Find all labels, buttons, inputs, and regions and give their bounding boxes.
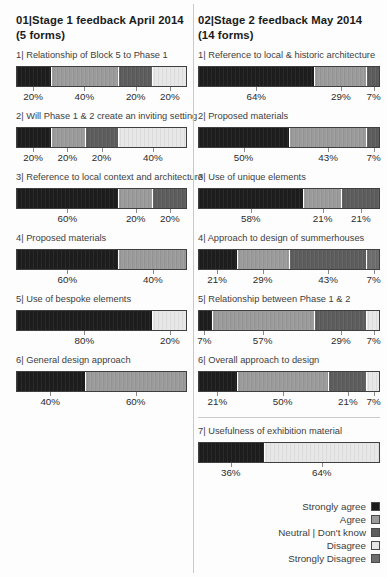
- bar-item: 6| Overall approach to design21%50%21%7%: [198, 354, 380, 409]
- bar-item: 4| Approach to design of summerhouses21%…: [198, 232, 380, 287]
- bar-segment-strongly_agree: [199, 372, 237, 391]
- pct-label: 21%: [207, 396, 227, 407]
- legend-row: Agree: [198, 513, 380, 526]
- pct-label: 64%: [312, 467, 332, 478]
- stacked-bar: [16, 310, 187, 331]
- bar-segment-neutral: [289, 250, 366, 269]
- legend-swatch-agree: [371, 515, 380, 524]
- pct-label: 7%: [366, 396, 380, 407]
- pct-label: 7%: [367, 274, 381, 285]
- pct-label: 60%: [57, 213, 77, 224]
- bar-segment-strongly_agree: [199, 189, 303, 208]
- bar-item-label: 1| Relationship of Block 5 to Phase 1: [16, 49, 187, 62]
- bar-segment-disagree: [366, 372, 379, 391]
- bar-item: 6| General design approach40%60%: [16, 354, 187, 409]
- bar-item-label: 3| Use of unique elements: [198, 171, 380, 184]
- pct-label: 43%: [318, 152, 338, 163]
- bar-item: 3| Reference to local context and archit…: [16, 171, 187, 226]
- bar-segment-agree: [118, 189, 152, 208]
- pct-label: 21%: [313, 213, 333, 224]
- pct-label: 40%: [75, 91, 95, 102]
- bar-segment-strongly_agree: [17, 67, 51, 86]
- bar-item: 4| Proposed materials60%40%: [16, 232, 187, 287]
- pct-label: 20%: [126, 91, 146, 102]
- bar-segment-strongly_agree: [17, 250, 118, 269]
- bar-item-label: 5| Use of bespoke elements: [16, 293, 187, 306]
- pct-label: 50%: [234, 152, 254, 163]
- bar-item-label: 1| Reference to local & historic archite…: [198, 49, 380, 62]
- stacked-bar: [198, 66, 380, 87]
- bar-segment-strongly_agree: [17, 128, 51, 147]
- bar-segment-agree: [118, 250, 186, 269]
- bar-item-label: 7| Usefulness of exhibition material: [198, 425, 380, 438]
- pct-label: 20%: [92, 152, 112, 163]
- bar-segment-strongly_agree: [17, 189, 118, 208]
- stacked-bar: [16, 371, 187, 392]
- pct-label: 57%: [253, 335, 273, 346]
- bar-segment-strongly_agree: [199, 128, 289, 147]
- bar-segment-neutral: [152, 189, 186, 208]
- legend-row: Strongly agree: [198, 500, 380, 513]
- pct-label: 21%: [338, 396, 358, 407]
- bar-value-labels: 20%20%20%40%: [16, 148, 187, 165]
- stage1-panel: 01|Stage 1 feedback April 2014(5 forms)1…: [16, 0, 187, 409]
- bar-segment-agree: [289, 128, 366, 147]
- section-divider: [198, 417, 380, 418]
- pct-label: 40%: [143, 274, 163, 285]
- pct-label: 7%: [197, 335, 211, 346]
- panel-subtitle: (5 forms): [16, 28, 187, 43]
- bar-segment-strongly_agree: [199, 311, 212, 330]
- pct-label: 21%: [207, 274, 227, 285]
- column-divider: [193, 4, 194, 573]
- stacked-bar: [198, 310, 380, 331]
- legend: Strongly agreeAgreeNeutral | Don't knowD…: [198, 500, 380, 565]
- pct-label: 20%: [23, 91, 43, 102]
- pct-label: 58%: [241, 213, 261, 224]
- bar-item: 2| Proposed materials50%43%7%: [198, 110, 380, 165]
- pct-label: 20%: [160, 213, 180, 224]
- feedback-report-page: 01|Stage 1 feedback April 2014(5 forms)1…: [0, 0, 387, 577]
- bar-segment-agree: [212, 311, 315, 330]
- legend-label: Disagree: [327, 540, 366, 551]
- pct-label: 50%: [273, 396, 293, 407]
- bar-item-label: 4| Proposed materials: [16, 232, 187, 245]
- panel-title-text: 02|Stage 2 feedback May 2014: [198, 13, 380, 28]
- bar-segment-neutral: [341, 189, 379, 208]
- bar-value-labels: 40%60%: [16, 392, 187, 409]
- pct-label: 20%: [160, 91, 180, 102]
- pct-label: 36%: [221, 467, 241, 478]
- stacked-bar: [16, 127, 187, 148]
- pct-label: 40%: [40, 396, 60, 407]
- pct-label: 20%: [160, 335, 180, 346]
- legend-swatch-neutral: [371, 528, 380, 537]
- bar-value-labels: 21%29%43%7%: [198, 270, 380, 287]
- pct-label: 7%: [367, 335, 381, 346]
- bar-segment-agree: [237, 372, 328, 391]
- pct-label: 60%: [57, 274, 77, 285]
- bar-item: 3| Use of unique elements58%21%21%: [198, 171, 380, 226]
- pct-label: 29%: [331, 91, 351, 102]
- pct-label: 20%: [126, 213, 146, 224]
- legend-label: Strongly Disagree: [288, 553, 366, 564]
- legend-swatch-strongly_disagree: [371, 554, 380, 563]
- stacked-bar: [16, 66, 187, 87]
- bar-segment-neutral: [118, 67, 152, 86]
- bar-segment-agree: [237, 250, 289, 269]
- bar-item: 2| Will Phase 1 & 2 create an inviting s…: [16, 110, 187, 165]
- stage2-panel: 02|Stage 2 feedback May 2014(14 forms)1|…: [198, 0, 380, 565]
- bar-item-label: 4| Approach to design of summerhouses: [198, 232, 380, 245]
- bar-item: 1| Reference to local & historic archite…: [198, 49, 380, 104]
- bar-segment-agree: [303, 189, 341, 208]
- legend-swatch-disagree: [371, 541, 380, 550]
- pct-label: 64%: [246, 91, 266, 102]
- pct-label: 21%: [351, 213, 371, 224]
- stacked-bar: [16, 188, 187, 209]
- bar-segment-neutral: [314, 311, 366, 330]
- bar-value-labels: 80%20%: [16, 331, 187, 348]
- pct-label: 60%: [126, 396, 146, 407]
- bar-segment-agree: [51, 67, 119, 86]
- bar-segment-neutral: [366, 128, 379, 147]
- pct-label: 7%: [367, 91, 381, 102]
- panel-subtitle: (14 forms): [198, 28, 380, 43]
- bar-item-label: 2| Proposed materials: [198, 110, 380, 123]
